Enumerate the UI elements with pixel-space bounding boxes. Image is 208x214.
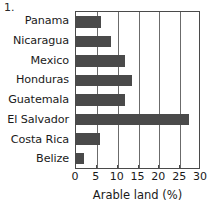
bar-row <box>76 71 199 91</box>
category-label: Belize <box>0 149 72 169</box>
category-label: Honduras <box>0 70 72 90</box>
bar-row <box>76 51 199 71</box>
bar-row <box>76 90 199 110</box>
x-axis-title: Arable land (%) <box>75 188 200 202</box>
bar <box>76 153 84 165</box>
bar-row <box>76 129 199 149</box>
category-label: Costa Rica <box>0 130 72 150</box>
bar <box>76 55 125 67</box>
bar-row <box>76 110 199 130</box>
x-tick-label: 20 <box>151 170 165 183</box>
x-tick-mark <box>179 165 180 169</box>
x-tick-mark <box>158 165 159 169</box>
x-tick-label: 10 <box>110 170 124 183</box>
x-tick-label: 25 <box>172 170 186 183</box>
bar-series <box>76 12 199 168</box>
category-label: Mexico <box>0 51 72 71</box>
bar <box>76 16 101 28</box>
category-label: Nicaragua <box>0 31 72 51</box>
bar-row <box>76 12 199 32</box>
x-axis-ticks: 051015202530 <box>75 170 200 183</box>
x-tick-label: 0 <box>72 170 79 183</box>
x-tick-mark <box>96 165 97 169</box>
category-label: Guatemala <box>0 90 72 110</box>
x-tick-label: 15 <box>131 170 145 183</box>
plot-area <box>75 11 200 169</box>
bar <box>76 94 125 106</box>
bar <box>76 133 100 145</box>
x-tick-label: 5 <box>92 170 99 183</box>
category-axis-labels: PanamaNicaraguaMexicoHondurasGuatemalaEl… <box>0 11 72 169</box>
x-tick-label: 30 <box>193 170 207 183</box>
x-tick-mark <box>138 165 139 169</box>
x-tick-mark <box>117 165 118 169</box>
category-label: Panama <box>0 11 72 31</box>
bar <box>76 36 111 48</box>
bar <box>76 114 189 126</box>
category-label: El Salvador <box>0 110 72 130</box>
bar-row <box>76 32 199 52</box>
bar <box>76 75 132 87</box>
arable-land-bar-chart-figure: 1. PanamaNicaraguaMexicoHondurasGuatemal… <box>0 0 208 214</box>
